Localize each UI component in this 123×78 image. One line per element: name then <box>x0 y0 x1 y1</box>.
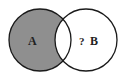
label-b: B <box>90 34 98 48</box>
venn-diagram: A ? B <box>0 0 123 78</box>
label-a: A <box>28 34 37 48</box>
unknown-marker: ? <box>79 35 85 47</box>
